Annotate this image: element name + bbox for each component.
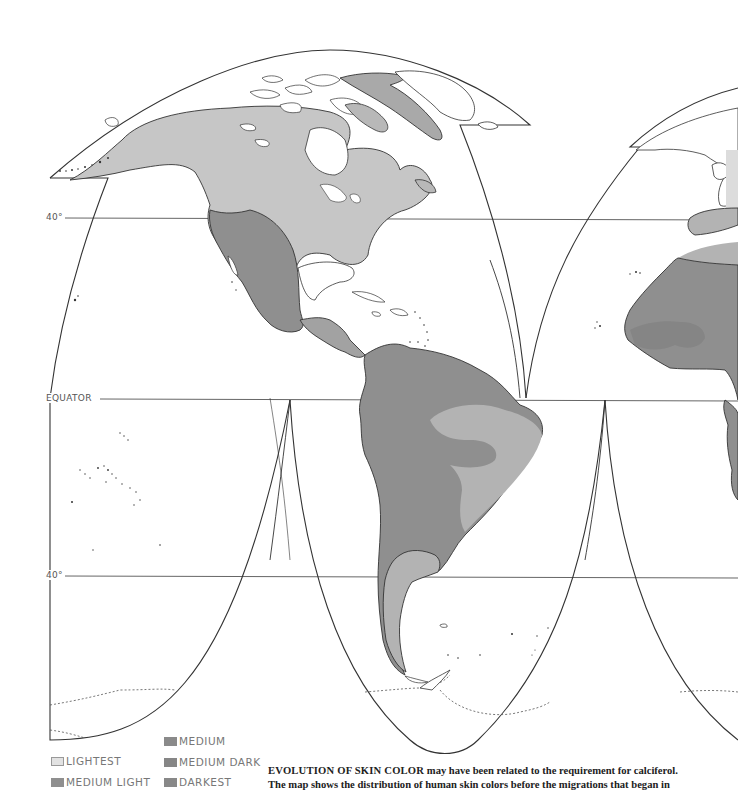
caption-line-2: The map shows the distribution of human … [268, 778, 738, 792]
label-north-40: 40° [46, 212, 65, 222]
region-europe-north [636, 108, 738, 206]
legend-item-lightest: LIGHTEST [51, 755, 121, 767]
region-baffin [345, 103, 388, 131]
swatch-darkest [164, 778, 177, 787]
legend-item-medium-light: MEDIUM LIGHT [51, 776, 150, 788]
legend-label: MEDIUM LIGHT [66, 776, 150, 788]
region-europe-lightest [726, 150, 738, 210]
region-iberia [688, 208, 738, 235]
falkland-islands [440, 624, 447, 627]
region-west-africa-interior [630, 321, 705, 349]
figure-caption: EVOLUTION OF SKIN COLOR may have been re… [268, 764, 738, 792]
north-40-line [64, 218, 738, 220]
antarctica-coast [50, 675, 738, 738]
iceland [478, 122, 498, 130]
legend-item-darkest: DARKEST [164, 776, 231, 788]
south-atlantic-islands [447, 627, 549, 659]
caption-line-1: EVOLUTION OF SKIN COLOR may have been re… [268, 764, 738, 778]
antarctic-peninsula [420, 670, 450, 690]
caption-line1-rest: may have been related to the requirement… [424, 765, 678, 776]
tierra-del-fuego [405, 676, 428, 683]
atlantic-cusp [490, 260, 520, 398]
legend-label: LIGHTEST [66, 755, 121, 767]
legend-label: DARKEST [179, 776, 231, 788]
pacific-cusp-left [270, 400, 290, 560]
legend-item-medium: MEDIUM [164, 735, 226, 747]
label-south-40: 40° [46, 570, 65, 580]
lesser-antilles [409, 311, 429, 347]
legend-label: MEDIUM [179, 735, 226, 747]
label-equator: EQUATOR [46, 393, 94, 403]
swatch-medium-light [51, 778, 64, 787]
caribbean-islands [352, 292, 408, 317]
region-patagonia [383, 550, 440, 672]
legend-item-medium-dark: MEDIUM DARK [164, 756, 261, 768]
swatch-medium [164, 737, 177, 746]
caption-lead: EVOLUTION OF SKIN COLOR [268, 765, 424, 776]
gulf-of-mexico [298, 262, 354, 300]
swatch-medium-dark [164, 758, 177, 767]
swatch-lightest [51, 757, 64, 766]
south-lobe-west-outline [50, 398, 290, 740]
south-lobe-africa-outline [605, 400, 738, 740]
region-africa-south [724, 400, 738, 500]
legend-label: MEDIUM DARK [179, 756, 261, 768]
world-map [0, 0, 738, 804]
region-central-america [300, 318, 365, 358]
pacific-islands [71, 281, 237, 551]
